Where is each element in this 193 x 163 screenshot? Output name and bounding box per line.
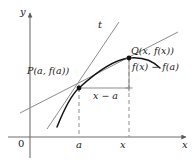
x-tick-label-a: a bbox=[76, 140, 82, 150]
origin-label: 0 bbox=[18, 139, 24, 149]
point-p-label: P(a, f(a)) bbox=[27, 66, 69, 76]
figure-canvas bbox=[0, 0, 193, 163]
x-axis-label: x bbox=[182, 140, 188, 150]
figure-container: y x 0 a x t P(a, f(a)) Q(x, f(x)) f(x) −… bbox=[0, 0, 193, 163]
rise-label: f(x) − f(a) bbox=[132, 62, 179, 72]
point-q-marker bbox=[127, 56, 132, 61]
x-tick-label-x: x bbox=[120, 140, 126, 150]
point-p-marker bbox=[77, 86, 82, 91]
y-axis-label: y bbox=[20, 7, 26, 17]
tangent-line-label: t bbox=[98, 20, 102, 30]
run-label: x − a bbox=[93, 91, 118, 101]
axis-group bbox=[8, 13, 186, 158]
point-q-label: Q(x, f(x)) bbox=[131, 46, 174, 56]
